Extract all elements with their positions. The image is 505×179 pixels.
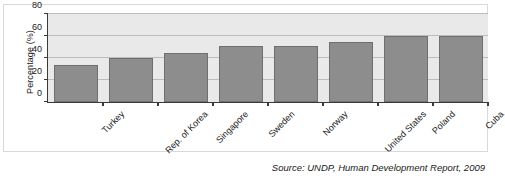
x-axis-category-label: Singapore [214,109,250,145]
y-axis-tick-label: 80 [32,0,42,10]
bar[interactable] [54,65,98,102]
y-axis-tick [44,101,48,102]
y-axis-tick-label: 0 [37,88,42,98]
x-axis-category-label: Norway [320,109,349,138]
y-axis-tick [44,79,48,80]
y-axis-tick-label: 40 [32,44,42,54]
source-caption: Source: UNDP, Human Development Report, … [272,162,485,173]
x-axis-tick [322,102,323,106]
bar[interactable] [219,46,263,102]
x-axis-tick [267,102,268,106]
bar[interactable] [329,42,373,103]
plot-area: 020406080TurkeyRep. of KoreaSingaporeSwe… [47,14,488,103]
x-axis-category-label: Sweden [266,109,296,139]
x-axis-category-label: Poland [430,109,457,136]
x-axis-category-label: Cuba [483,109,505,131]
bar[interactable] [164,53,208,103]
bar[interactable] [274,46,318,102]
y-axis-tick [44,57,48,58]
x-axis-tick [377,102,378,106]
x-axis-category-label: United States [382,109,427,154]
x-axis-tick [157,102,158,106]
x-axis-tick [487,102,488,106]
y-axis-tick [44,13,48,14]
x-axis-category-label: Rep. of Korea [163,109,209,155]
chart-frame: Percentage (%) 020406080TurkeyRep. of Ko… [3,4,488,152]
y-axis-tick-label: 20 [32,66,42,76]
bar[interactable] [384,36,428,102]
bar[interactable] [109,58,153,102]
x-axis-tick [432,102,433,106]
y-axis-tick-label: 60 [32,22,42,32]
x-axis-tick [102,102,103,106]
x-axis-category-label: Turkey [99,109,125,135]
x-axis-tick [212,102,213,106]
y-axis-tick [44,35,48,36]
gridline [48,13,488,14]
bar[interactable] [439,36,483,102]
